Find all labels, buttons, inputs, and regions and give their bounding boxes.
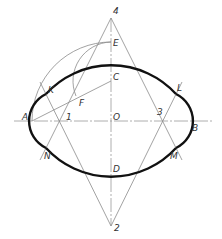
label-M: M <box>170 151 178 161</box>
label-D: D <box>113 164 120 174</box>
label-E: E <box>113 38 119 48</box>
label-O: O <box>113 112 120 122</box>
label-L: L <box>177 83 182 93</box>
arc-A-E <box>32 42 111 121</box>
ellipse-construction-diagram: 4 E C O D 2 A B K F 1 3 L M N <box>0 0 222 239</box>
label-2: 2 <box>114 223 120 233</box>
label-A: A <box>21 112 28 122</box>
label-F: F <box>79 98 85 108</box>
label-3: 3 <box>157 107 163 117</box>
label-N: N <box>44 151 51 161</box>
label-B: B <box>192 123 198 133</box>
label-C: C <box>113 72 120 82</box>
label-4: 4 <box>113 6 119 16</box>
label-1: 1 <box>66 112 72 122</box>
arc-E-F <box>73 42 111 96</box>
